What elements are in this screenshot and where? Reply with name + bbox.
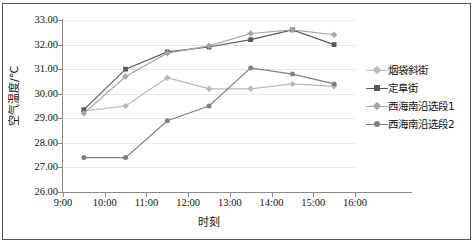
y-axis-title: 空气温度/℃	[5, 41, 21, 151]
series-line	[84, 30, 334, 114]
legend-item-2[interactable]: 定阜街	[366, 80, 472, 96]
legend-item-4[interactable]: 西海南沿选段2	[366, 116, 472, 132]
legend-item-3[interactable]: 西海南沿选段1	[366, 98, 472, 114]
series-line	[84, 68, 334, 158]
data-point-marker	[206, 86, 213, 93]
series-2	[81, 27, 336, 112]
data-point-marker	[289, 81, 296, 88]
data-point-marker	[247, 86, 254, 93]
x-axis-title: 时刻	[63, 213, 355, 229]
data-point-marker	[332, 81, 337, 86]
data-point-marker	[122, 103, 129, 110]
data-point-marker	[123, 67, 128, 72]
data-point-marker	[123, 155, 128, 160]
data-point-marker	[164, 74, 171, 81]
data-point-marker	[248, 37, 253, 42]
legend-item-1[interactable]: 烟袋斜街	[366, 62, 472, 78]
series-4	[81, 65, 336, 160]
data-point-marker	[165, 118, 170, 123]
data-point-marker	[290, 72, 295, 77]
data-point-marker	[331, 31, 338, 38]
legend-marker-icon	[366, 82, 388, 94]
legend-item-label: 定阜街	[388, 82, 418, 94]
data-point-marker	[247, 30, 254, 37]
legend-item-label: 西海南沿选段2	[388, 118, 455, 130]
data-point-marker	[81, 155, 86, 160]
legend-marker-icon	[366, 100, 388, 112]
chart-legend: 烟袋斜街定阜街西海南沿选段1西海南沿选段2	[366, 62, 472, 134]
legend-item-label: 烟袋斜街	[388, 64, 428, 76]
chart-container: 33.0032.0031.0030.0029.0028.0027.0026.00…	[0, 0, 475, 243]
data-point-marker	[332, 42, 337, 47]
legend-marker-icon	[366, 64, 388, 76]
series-3	[81, 27, 338, 117]
series-line	[84, 30, 334, 110]
legend-marker-icon	[366, 118, 388, 130]
data-point-marker	[248, 65, 253, 70]
data-point-marker	[207, 104, 212, 109]
legend-item-label: 西海南沿选段1	[388, 100, 455, 112]
